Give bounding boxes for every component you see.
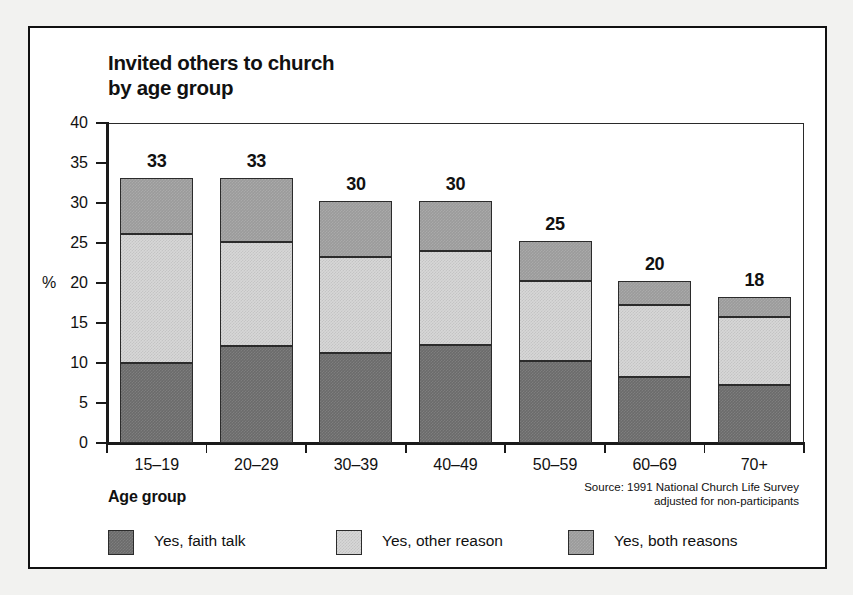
x-axis-tick <box>206 444 208 453</box>
legend-swatch-faith-talk <box>108 530 134 555</box>
bar-segment-other-reason[interactable] <box>519 281 592 361</box>
stacked-bar[interactable] <box>618 281 691 443</box>
bar-segment-other-reason[interactable] <box>319 257 392 353</box>
stacked-bar[interactable] <box>419 201 492 443</box>
bar-value-label: 18 <box>704 270 804 291</box>
bar-segment-faith-talk[interactable] <box>419 345 492 443</box>
bar-segment-other-reason[interactable] <box>618 305 691 377</box>
bar-segment-faith-talk[interactable] <box>618 377 691 443</box>
bar-segment-other-reason[interactable] <box>419 251 492 345</box>
legend-swatch-other-reason <box>336 530 362 555</box>
y-axis-tick <box>96 362 107 364</box>
bar-value-label: 20 <box>605 254 705 275</box>
x-axis-tick <box>106 444 108 453</box>
bar-segment-other-reason[interactable] <box>120 234 193 363</box>
stacked-bar[interactable] <box>519 241 592 443</box>
x-axis-tick-label: 70+ <box>704 456 804 474</box>
chart-legend: Yes, faith talkYes, other reasonYes, bot… <box>108 528 798 562</box>
bar-value-label: 30 <box>306 174 406 195</box>
x-axis-tick-label: 40–49 <box>406 456 506 474</box>
x-axis-title: Age group <box>108 488 186 506</box>
stacked-bar[interactable] <box>220 178 293 443</box>
x-axis-tick <box>803 444 805 453</box>
bar-segment-both-reasons[interactable] <box>319 201 392 257</box>
stacked-bar[interactable] <box>319 201 392 443</box>
bar-segment-both-reasons[interactable] <box>618 281 691 306</box>
bar-segment-faith-talk[interactable] <box>319 353 392 443</box>
bar-value-label: 30 <box>406 174 506 195</box>
y-axis-tick <box>96 322 107 324</box>
stacked-bar[interactable] <box>718 297 791 443</box>
bar-segment-other-reason[interactable] <box>718 317 791 385</box>
y-axis-tick-label: 5 <box>44 394 88 412</box>
legend-label: Yes, other reason <box>382 532 503 550</box>
y-axis-tick-label: 0 <box>44 434 88 452</box>
x-axis-tick-label: 15–19 <box>107 456 207 474</box>
y-axis-tick-label: 10 <box>44 354 88 372</box>
y-axis-tick <box>96 122 107 124</box>
x-axis-tick <box>604 444 606 453</box>
y-axis-tick <box>96 402 107 404</box>
bar-segment-other-reason[interactable] <box>220 242 293 346</box>
bar-segment-faith-talk[interactable] <box>519 361 592 443</box>
legend-label: Yes, both reasons <box>614 532 738 550</box>
bar-value-label: 33 <box>207 151 307 172</box>
legend-label: Yes, faith talk <box>154 532 246 550</box>
x-axis-tick-label: 30–39 <box>306 456 406 474</box>
bar-segment-both-reasons[interactable] <box>220 178 293 242</box>
bar-segment-both-reasons[interactable] <box>718 297 791 318</box>
y-axis-unit-label: % <box>42 274 56 292</box>
y-axis-tick-label: 25 <box>44 234 88 252</box>
source-note: Source: 1991 National Church Life Survey… <box>584 480 799 508</box>
x-axis-tick-label: 50–59 <box>505 456 605 474</box>
y-axis-tick <box>96 242 107 244</box>
y-axis-tick-label: 30 <box>44 194 88 212</box>
y-axis-tick-label: 15 <box>44 314 88 332</box>
y-axis-tick <box>96 282 107 284</box>
y-axis-tick-label: 35 <box>44 154 88 172</box>
y-axis-tick <box>96 162 107 164</box>
bar-value-label: 25 <box>505 214 605 235</box>
chart-title: Invited others to church by age group <box>108 50 528 100</box>
bar-segment-both-reasons[interactable] <box>120 178 193 234</box>
bar-segment-both-reasons[interactable] <box>419 201 492 251</box>
x-axis-tick-label: 60–69 <box>605 456 705 474</box>
stacked-bar[interactable] <box>120 178 193 443</box>
x-axis-tick <box>504 444 506 453</box>
x-axis-tick-label: 20–29 <box>207 456 307 474</box>
bar-segment-both-reasons[interactable] <box>519 241 592 282</box>
x-axis-tick <box>305 444 307 453</box>
y-axis-tick-label: 40 <box>44 114 88 132</box>
bar-segment-faith-talk[interactable] <box>120 363 193 443</box>
x-axis-tick <box>405 444 407 453</box>
bar-value-label: 33 <box>107 151 207 172</box>
bar-segment-faith-talk[interactable] <box>220 346 293 443</box>
legend-swatch-both-reasons <box>568 530 594 555</box>
chart-figure-frame: Invited others to church by age group 05… <box>28 26 827 569</box>
x-axis-tick <box>704 444 706 453</box>
y-axis-tick <box>96 202 107 204</box>
bar-segment-faith-talk[interactable] <box>718 385 791 443</box>
